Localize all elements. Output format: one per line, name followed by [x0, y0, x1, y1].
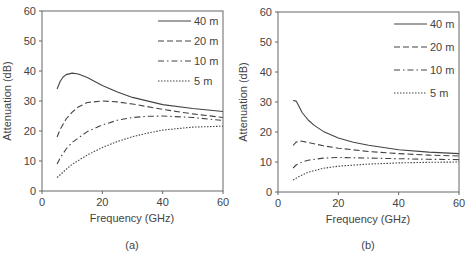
figure: 40 m20 m10 m5 m 01020304050600204060 Fre…: [0, 0, 471, 263]
series-line-5m: [293, 162, 459, 180]
y-tick-label: 30: [260, 96, 272, 108]
x-tick-label: 40: [157, 196, 169, 208]
legend-label-20m: 20 m: [194, 35, 218, 47]
series-line-5m: [57, 126, 223, 177]
series-line-40m: [293, 101, 459, 154]
y-tick-label: 0: [266, 186, 272, 198]
y-tick-label: 40: [260, 66, 272, 78]
series-group-a: [57, 73, 223, 177]
y-tick-label: 40: [24, 65, 36, 77]
legend-label-10m: 10 m: [430, 64, 454, 76]
chart-panel-b: 40 m20 m10 m5 m 01020304050600204060 Fre…: [237, 6, 465, 251]
y-tick-label: 50: [260, 36, 272, 48]
y-ticks-b: [275, 12, 459, 195]
x-tick-label: 20: [96, 196, 108, 208]
y-tick-label: 20: [24, 125, 36, 137]
series-line-20m: [57, 101, 223, 137]
y-tick-label: 0: [30, 185, 36, 197]
legend-label-20m: 20 m: [430, 41, 454, 53]
y-tick-label: 60: [260, 6, 272, 18]
legend-b: 40 m20 m10 m5 m: [394, 18, 454, 99]
x-axis-title-b: Frequency (GHz): [326, 213, 410, 225]
x-tick-label: 0: [39, 196, 45, 208]
y-tick-label: 10: [24, 155, 36, 167]
legend-label-40m: 40 m: [430, 18, 454, 30]
x-tick-label: 60: [217, 196, 229, 208]
chart-panel-a: 40 m20 m10 m5 m 01020304050600204060 Fre…: [1, 5, 229, 251]
series-line-10m: [57, 116, 223, 164]
y-axis-title-b: Attenuation (dB): [237, 62, 249, 142]
series-group-b: [293, 101, 459, 181]
caption-b: (b): [361, 239, 374, 251]
x-tick-label: 60: [453, 197, 465, 209]
legend-a: 40 m20 m10 m5 m: [158, 15, 218, 87]
y-tick-label: 50: [24, 35, 36, 47]
legend-label-40m: 40 m: [194, 15, 218, 27]
y-tick-label: 10: [260, 156, 272, 168]
legend-label-10m: 10 m: [194, 55, 218, 67]
series-line-10m: [293, 158, 459, 169]
y-axis-title-a: Attenuation (dB): [1, 61, 13, 141]
x-tick-label: 0: [275, 197, 281, 209]
x-tick-label: 20: [332, 197, 344, 209]
plot-frame-b: [278, 12, 459, 192]
legend-label-5m: 5 m: [194, 75, 212, 87]
caption-a: (a): [125, 239, 138, 251]
y-tick-label: 20: [260, 126, 272, 138]
tick-labels-b: 01020304050600204060: [260, 6, 465, 209]
series-line-20m: [293, 141, 459, 156]
x-tick-label: 40: [393, 197, 405, 209]
x-axis-title-a: Frequency (GHz): [90, 212, 174, 224]
y-tick-label: 60: [24, 5, 36, 17]
y-tick-label: 30: [24, 95, 36, 107]
legend-label-5m: 5 m: [430, 87, 448, 99]
